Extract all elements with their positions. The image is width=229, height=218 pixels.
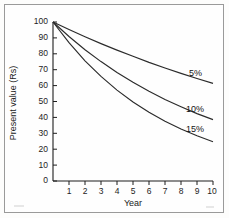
y-tick-100: 100 — [28, 17, 48, 26]
y-tick-50: 50 — [28, 97, 48, 106]
y-axis-ticks — [53, 22, 57, 181]
y-tick-10: 10 — [28, 161, 48, 170]
x-tick-10: 10 — [206, 187, 218, 196]
x-tick-5: 5 — [127, 187, 139, 196]
series-label-10pct: 10% — [186, 104, 204, 114]
x-tick-9: 9 — [191, 187, 203, 196]
x-tick-2: 2 — [79, 187, 91, 196]
y-tick-70: 70 — [28, 65, 48, 74]
y-tick-80: 80 — [28, 49, 48, 58]
y-tick-30: 30 — [28, 129, 48, 138]
x-axis-ticks — [69, 181, 213, 185]
chart-page: 100 90 80 70 60 50 40 30 20 10 0 1 2 3 4… — [0, 0, 229, 218]
series-label-15pct: 15% — [186, 124, 204, 134]
scan-speckle — [14, 205, 24, 207]
x-tick-6: 6 — [143, 187, 155, 196]
x-tick-1: 1 — [63, 187, 75, 196]
scan-speckle — [206, 206, 214, 208]
y-tick-20: 20 — [28, 145, 48, 154]
x-axis-label: Year — [53, 198, 213, 208]
y-tick-60: 60 — [28, 81, 48, 90]
y-tick-0: 0 — [28, 176, 48, 185]
y-tick-40: 40 — [28, 113, 48, 122]
y-axis-label: Present value (Rs) — [8, 43, 18, 163]
y-tick-90: 90 — [28, 33, 48, 42]
x-tick-8: 8 — [175, 187, 187, 196]
x-tick-7: 7 — [159, 187, 171, 196]
x-tick-4: 4 — [111, 187, 123, 196]
series-label-5pct: 5% — [189, 68, 202, 78]
x-tick-3: 3 — [95, 187, 107, 196]
